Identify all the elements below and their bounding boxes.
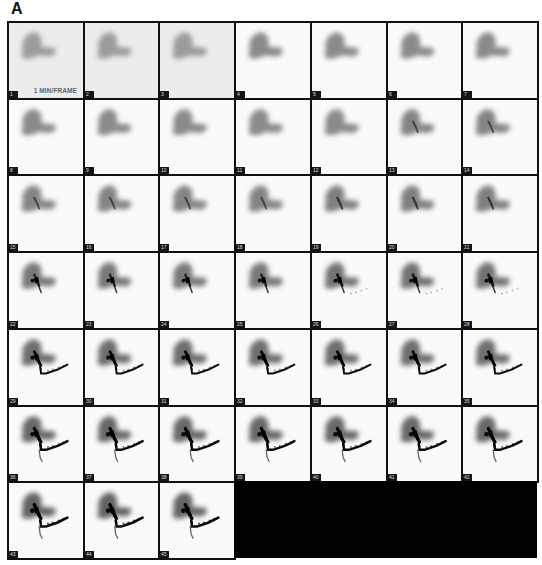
frame-number: 12 bbox=[312, 167, 321, 174]
frame-number: 42 bbox=[463, 474, 472, 481]
frame-number: 41 bbox=[388, 474, 397, 481]
frame-number: 16 bbox=[85, 244, 94, 251]
scan-frame-36: 36 bbox=[7, 405, 85, 483]
scan-image bbox=[9, 100, 83, 174]
scan-frame-34: 34 bbox=[386, 328, 463, 407]
scan-image bbox=[236, 23, 310, 98]
scan-image bbox=[388, 407, 461, 481]
scan-frame-19: 19 bbox=[310, 174, 388, 253]
frame-number: 24 bbox=[160, 321, 169, 328]
scan-image bbox=[312, 176, 386, 251]
frame-number: 23 bbox=[85, 321, 94, 328]
scan-frame-31: 31 bbox=[158, 328, 236, 407]
scan-frame-3: 3 bbox=[158, 21, 236, 100]
scan-image bbox=[160, 330, 234, 405]
scan-frame-43: 43 bbox=[7, 481, 85, 560]
frame-number: 1 bbox=[9, 91, 18, 98]
scan-frame-38: 38 bbox=[158, 405, 236, 483]
frame-grid: 11 MIN/FRAME2345678910111213141516171819… bbox=[7, 21, 537, 558]
frame-number: 17 bbox=[160, 244, 169, 251]
frame-number: 15 bbox=[9, 244, 18, 251]
scan-image bbox=[9, 176, 83, 251]
scan-image bbox=[160, 407, 234, 481]
frame-number: 3 bbox=[160, 91, 169, 98]
scan-frame-40: 40 bbox=[310, 405, 388, 483]
scan-image bbox=[312, 253, 386, 328]
frame-rate-caption: 1 MIN/FRAME bbox=[34, 87, 77, 94]
scan-frame-12: 12 bbox=[310, 98, 388, 176]
scan-image bbox=[85, 23, 158, 98]
scan-image bbox=[9, 483, 83, 558]
scan-frame-41: 41 bbox=[386, 405, 463, 483]
scan-frame-23: 23 bbox=[83, 251, 160, 330]
scan-frame-21: 21 bbox=[461, 174, 539, 253]
scan-frame-29: 29 bbox=[7, 328, 85, 407]
scan-frame-26: 26 bbox=[310, 251, 388, 330]
scan-image bbox=[85, 483, 158, 558]
frame-number: 5 bbox=[312, 91, 321, 98]
scan-frame-18: 18 bbox=[234, 174, 312, 253]
scan-image bbox=[463, 100, 537, 174]
scan-image bbox=[312, 330, 386, 405]
scan-image bbox=[463, 176, 537, 251]
scan-frame-7: 7 bbox=[461, 21, 539, 100]
scan-image bbox=[312, 100, 386, 174]
scan-image bbox=[463, 407, 537, 481]
scan-frame-30: 30 bbox=[83, 328, 160, 407]
panel-label: A bbox=[11, 0, 23, 18]
scan-image bbox=[9, 330, 83, 405]
scan-frame-22: 22 bbox=[7, 251, 85, 330]
frame-number: 28 bbox=[463, 321, 472, 328]
frame-number: 21 bbox=[463, 244, 472, 251]
frame-number: 33 bbox=[312, 398, 321, 405]
scan-frame-11: 11 bbox=[234, 98, 312, 176]
frame-number: 20 bbox=[388, 244, 397, 251]
scan-frame-20: 20 bbox=[386, 174, 463, 253]
scan-image bbox=[9, 253, 83, 328]
frame-number: 8 bbox=[9, 167, 18, 174]
scan-frame-42: 42 bbox=[461, 405, 539, 483]
frame-number: 37 bbox=[85, 474, 94, 481]
scan-image bbox=[388, 100, 461, 174]
empty-filler bbox=[234, 481, 537, 558]
frame-number: 36 bbox=[9, 474, 18, 481]
scan-image bbox=[388, 253, 461, 328]
scan-frame-2: 2 bbox=[83, 21, 160, 100]
frame-number: 35 bbox=[463, 398, 472, 405]
scan-frame-44: 44 bbox=[83, 481, 160, 560]
scan-frame-25: 25 bbox=[234, 251, 312, 330]
frame-number: 40 bbox=[312, 474, 321, 481]
frame-number: 10 bbox=[160, 167, 169, 174]
frame-number: 6 bbox=[388, 91, 397, 98]
frame-number: 4 bbox=[236, 91, 245, 98]
frame-number: 32 bbox=[236, 398, 245, 405]
scan-image bbox=[85, 100, 158, 174]
scan-frame-32: 32 bbox=[234, 328, 312, 407]
scan-frame-5: 5 bbox=[310, 21, 388, 100]
frame-number: 31 bbox=[160, 398, 169, 405]
frame-number: 13 bbox=[388, 167, 397, 174]
frame-number: 14 bbox=[463, 167, 472, 174]
frame-number: 39 bbox=[236, 474, 245, 481]
scan-frame-6: 6 bbox=[386, 21, 463, 100]
scan-frame-37: 37 bbox=[83, 405, 160, 483]
scan-frame-16: 16 bbox=[83, 174, 160, 253]
frame-number: 30 bbox=[85, 398, 94, 405]
scan-frame-8: 8 bbox=[7, 98, 85, 176]
scan-image bbox=[236, 176, 310, 251]
scan-frame-27: 27 bbox=[386, 251, 463, 330]
scan-image bbox=[160, 100, 234, 174]
scan-frame-33: 33 bbox=[310, 328, 388, 407]
scan-frame-45: 45 bbox=[158, 481, 236, 560]
scan-image bbox=[9, 407, 83, 481]
frame-number: 34 bbox=[388, 398, 397, 405]
scan-frame-17: 17 bbox=[158, 174, 236, 253]
scan-image bbox=[236, 407, 310, 481]
scan-frame-10: 10 bbox=[158, 98, 236, 176]
scan-frame-35: 35 bbox=[461, 328, 539, 407]
scan-image bbox=[236, 100, 310, 174]
scan-image bbox=[236, 253, 310, 328]
scan-frame-24: 24 bbox=[158, 251, 236, 330]
scan-image bbox=[160, 253, 234, 328]
scan-image bbox=[312, 23, 386, 98]
